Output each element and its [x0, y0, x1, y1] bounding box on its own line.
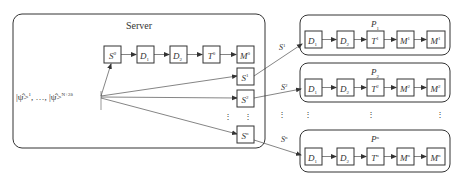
participant-p2-title: P2	[370, 67, 380, 79]
edge-s2	[254, 89, 301, 98]
distribution-edges: S1 S2 Sn	[254, 43, 302, 155]
participants-ellipsis: ⋮ ⋮ ⋮ ⋮	[278, 110, 444, 119]
edge-sn	[254, 140, 301, 155]
input-states-label: |ψ̂>1, …, |ψ̂>N+2δ	[16, 92, 73, 102]
participant-p1: P1 D1 D2 T1 M1 M1	[300, 15, 450, 55]
edge-label-sn: Sn	[281, 135, 288, 144]
quantum-protocol-diagram: Server |ψ̂>1, …, |ψ̂>N+2δ S0 D1 D2 T0	[0, 0, 459, 180]
svg-text:⋮: ⋮	[278, 110, 286, 119]
svg-text:⋮: ⋮	[436, 110, 444, 119]
participant-p1-title: P1	[370, 19, 380, 31]
arrow-to-s2	[101, 97, 237, 98]
participant-pn-title: Pn	[370, 134, 380, 144]
svg-text:⋮: ⋮	[367, 110, 375, 119]
participant-pn: Pn D1 D2 Tn Mn Mn	[300, 130, 450, 172]
edge-label-s1: S1	[279, 43, 286, 52]
svg-text:⋮: ⋮	[304, 110, 312, 119]
ellipsis-server-a: ⋮	[224, 112, 232, 121]
arrow-to-sn	[101, 98, 237, 134]
server-panel: Server |ψ̂>1, …, |ψ̂>N+2δ S0 D1 D2 T0	[13, 14, 265, 148]
server-chain: S0 D1 D2 T0 M0	[104, 46, 254, 63]
server-title: Server	[126, 20, 153, 31]
participant-p2: P2 D1 D2 T2 M2 M2	[300, 63, 450, 102]
edge-s1	[254, 44, 302, 76]
arrow-to-s0	[101, 64, 111, 96]
edge-label-s2: S2	[281, 83, 288, 92]
ellipsis-server-b: ⋮	[244, 112, 252, 121]
arrow-to-s1	[101, 76, 237, 96]
